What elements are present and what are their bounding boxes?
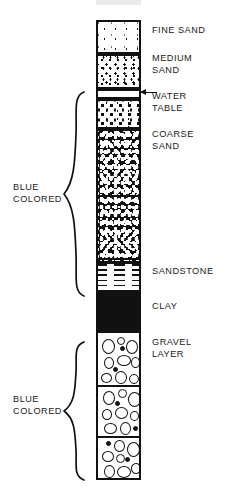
sandstone-label: SANDSTONE: [152, 266, 214, 278]
layer-clay: [96, 292, 141, 331]
layer-fine-sand: [96, 20, 141, 54]
layer-gravel: [96, 331, 141, 480]
clay-label: CLAY: [152, 301, 177, 313]
layer-coarse-sand-upper: [96, 99, 141, 129]
blue-colored-lower-label: BLUE COLORED: [13, 394, 62, 417]
layer-medium-sand: [96, 54, 141, 89]
diagram-canvas: FINE SAND MEDIUM SAND WATER TABLE COARSE…: [0, 0, 229, 488]
fine-sand-label: FINE SAND: [152, 25, 206, 37]
medium-sand-label: MEDIUM SAND: [152, 53, 192, 76]
coarse-sand-label: COARSE SAND: [152, 129, 194, 152]
blue-colored-lower-brace: [60, 340, 86, 482]
scan-edge-artifact: [96, 0, 141, 5]
water-table-label: WATER TABLE: [152, 91, 187, 114]
layer-sandstone: [96, 262, 141, 292]
stratigraphic-column: [96, 20, 141, 480]
blue-colored-upper-brace: [60, 90, 86, 298]
blue-colored-upper-label: BLUE COLORED: [13, 182, 62, 205]
gravel-label: GRAVEL LAYER: [152, 337, 192, 360]
layer-water-table: [96, 89, 141, 99]
coarse-sand-seam: [96, 195, 141, 197]
water-table-arrowhead: [140, 89, 146, 95]
